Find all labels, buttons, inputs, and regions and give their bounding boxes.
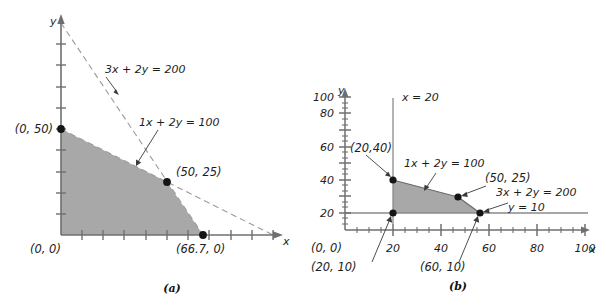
panel-b-label-3x2y: 3x + 2y = 200 [496,186,576,199]
panel-a-point-50-25 [163,178,171,186]
figure-container: 3x + 2y = 200 1x + 2y = 100 (0, 50) (50,… [0,0,606,306]
panel-b-xtick-60: 60 [482,242,496,255]
panel-a-pointlabel-50-25: (50, 25) [176,165,222,179]
panel-a-label-1x2y: 1x + 2y = 100 [139,116,219,129]
panel-b-point-20-40 [389,176,396,183]
panel-b-ytick-80: 80 [320,107,334,120]
panel-b-xtick-40: 40 [434,242,448,255]
panel-b-point-20-10 [389,209,396,216]
panel-a-y-axis-label: y [49,15,57,28]
panel-a-x-axis-label: x [282,235,290,248]
panel-a-pointlabel-66-7-0: (66.7, 0) [176,242,225,256]
panel-b-ytick-60: 60 [320,141,334,154]
panel-b-caption: (b) [449,280,467,293]
panel-b-pointlabel-0-0: (0, 0) [311,241,342,255]
panel-a-pointlabel-0-50: (0, 50) [15,122,53,136]
panel-b-x-axis-label: x [588,243,596,256]
panel-a-label-3x2y: 3x + 2y = 200 [105,63,185,76]
panel-b-pointlabel-20-40: (20,40) [350,141,392,155]
panel-b-pointlabel-20-10: (20, 10) [311,260,357,274]
panel-a-point-0-50 [57,125,65,133]
panel-a-pointlabel-0-0: (0, 0) [30,242,61,256]
panel-b-pointlabel-60-10: (60, 10) [420,260,466,274]
panel-b-xtick-80: 80 [530,242,544,255]
panel-b-ytick-40: 40 [320,174,334,187]
panel-b-xtick-20: 20 [386,242,400,255]
panel-b-point-60-10 [476,209,483,216]
panel-b-pointlabel-50-25: (50, 25) [485,171,531,185]
panel-b-point-50-25 [454,193,461,200]
panel-a-caption: (a) [163,282,181,295]
linear-programming-figure: 3x + 2y = 200 1x + 2y = 100 (0, 50) (50,… [0,0,606,306]
panel-b-label-x20: x = 20 [401,91,439,104]
panel-b-y-axis-label: y [337,84,345,97]
panel-a-point-66-7-0 [199,231,207,239]
panel-b-ytick-20: 20 [320,207,334,220]
panel-b-ytick-100: 100 [313,91,334,104]
panel-b-label-1x2y: 1x + 2y = 100 [404,157,484,170]
panel-b-label-y10: y = 10 [507,201,545,214]
